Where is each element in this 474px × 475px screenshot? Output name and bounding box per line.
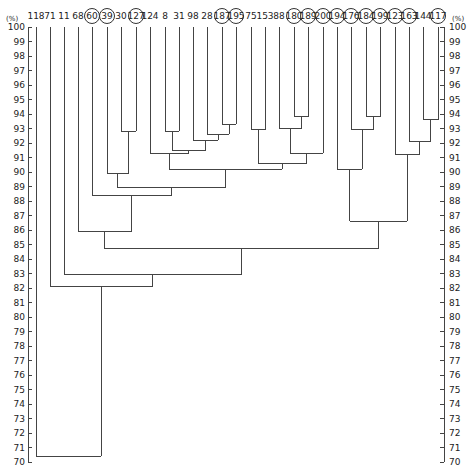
y-tick-label: 97 [14,66,25,76]
y-tick-label: 72 [449,428,460,438]
y-tick-label: 82 [449,283,460,293]
leaf-label: 153 [256,11,273,21]
y-tick-label: 92 [449,138,460,148]
y-tick-label: 89 [449,182,461,192]
y-tick-label: 79 [14,327,26,337]
leaf-label: 75 [245,11,256,21]
dendrogram-links [36,27,438,456]
y-tick-label: 100 [449,22,466,32]
y-tick-label: 80 [14,312,26,322]
leaf-label: 8 [162,11,168,21]
leaf-label: 117 [429,11,446,21]
y-tick-label: 74 [14,399,26,409]
y-tick-label: 78 [14,341,26,351]
y-tick-label: 80 [449,312,461,322]
y-tick-label: 97 [449,66,460,76]
y-tick-label: 71 [449,443,460,453]
leaf-label: 68 [72,11,84,21]
y-tick-label: 73 [449,414,460,424]
y-tick-label: 75 [14,385,25,395]
y-tick-label: 90 [14,167,26,177]
y-tick-label: 85 [14,240,25,250]
leaf-label: 31 [173,11,184,21]
leaf-label: 71 [44,11,55,21]
leaf-label: 88 [273,11,285,21]
y-tick-label: 81 [449,298,460,308]
leaf-labels: 1187111686039301271248319828187195751538… [27,9,446,24]
y-tick-label: 99 [449,37,461,47]
y-tick-label: 91 [14,153,25,163]
y-tick-label: 70 [14,457,26,467]
y-tick-label: 98 [449,51,461,61]
y-tick-label: 81 [14,298,25,308]
y-tick-label: 77 [14,356,25,366]
y-tick-label: 85 [449,240,460,250]
y-tick-label: 91 [449,153,460,163]
y-tick-label: 96 [449,80,461,90]
y-tick-label: 87 [14,211,25,221]
y-tick-label: 77 [449,356,460,366]
y-tick-label: 82 [14,283,25,293]
y-tick-label: 84 [449,254,461,264]
leaf-label: 98 [187,11,199,21]
y-tick-label: 93 [14,124,25,134]
y-tick-label: 100 [8,22,25,32]
leaf-label: 118 [27,11,44,21]
y-tick-label: 74 [449,399,461,409]
y-tick-label: 72 [14,428,25,438]
y-tick-label: 83 [14,269,25,279]
leaf-label: 195 [227,11,244,21]
left-y-axis: 1009998979695949392919089888786858483828… [8,22,32,467]
y-tick-label: 95 [14,95,25,105]
y-tick-label: 79 [449,327,461,337]
y-tick-label: 71 [14,443,25,453]
y-tick-label: 87 [449,211,460,221]
leaf-label: 39 [101,11,113,21]
y-tick-label: 88 [449,196,461,206]
y-tick-label: 76 [449,370,461,380]
y-tick-label: 86 [14,225,26,235]
y-tick-label: 90 [449,167,461,177]
y-tick-label: 73 [14,414,25,424]
right-y-axis: 1009998979695949392919089888786858483828… [440,22,466,467]
y-tick-label: 78 [449,341,461,351]
y-tick-label: 95 [449,95,460,105]
y-tick-label: 83 [449,269,460,279]
y-tick-label: 98 [14,51,26,61]
y-tick-label: 86 [449,225,461,235]
leaf-label: 28 [201,11,213,21]
y-tick-label: 88 [14,196,26,206]
y-tick-label: 75 [449,385,460,395]
y-tick-label: 84 [14,254,26,264]
y-tick-label: 99 [14,37,26,47]
leaf-label: 124 [141,11,158,21]
y-tick-label: 92 [14,138,25,148]
dendrogram-chart: 1009998979695949392919089888786858483828… [0,0,474,475]
y-tick-label: 89 [14,182,26,192]
leaf-label: 30 [115,11,127,21]
y-tick-label: 94 [449,109,461,119]
y-tick-label: 70 [449,457,461,467]
y-tick-label: 96 [14,80,26,90]
y-tick-label: 94 [14,109,26,119]
y-tick-label: 93 [449,124,460,134]
leaf-label: 60 [86,11,98,21]
y-axis-unit-left: (%) [6,15,18,23]
y-axis-unit-right: (%) [452,15,464,23]
leaf-label: 11 [58,11,69,21]
y-tick-label: 76 [14,370,26,380]
